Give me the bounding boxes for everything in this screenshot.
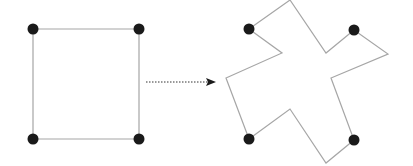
control-point bbox=[28, 24, 39, 35]
control-point bbox=[349, 25, 360, 36]
control-point bbox=[28, 134, 39, 145]
control-point bbox=[134, 134, 145, 145]
transformation-diagram bbox=[0, 0, 413, 166]
control-point bbox=[244, 134, 255, 145]
square-control-points bbox=[28, 24, 145, 145]
square-outline bbox=[33, 29, 139, 139]
control-point bbox=[244, 24, 255, 35]
control-point bbox=[349, 135, 360, 146]
source-square bbox=[28, 24, 145, 145]
transform-arrow bbox=[146, 78, 216, 86]
target-shape bbox=[226, 0, 388, 163]
control-point bbox=[134, 24, 145, 35]
